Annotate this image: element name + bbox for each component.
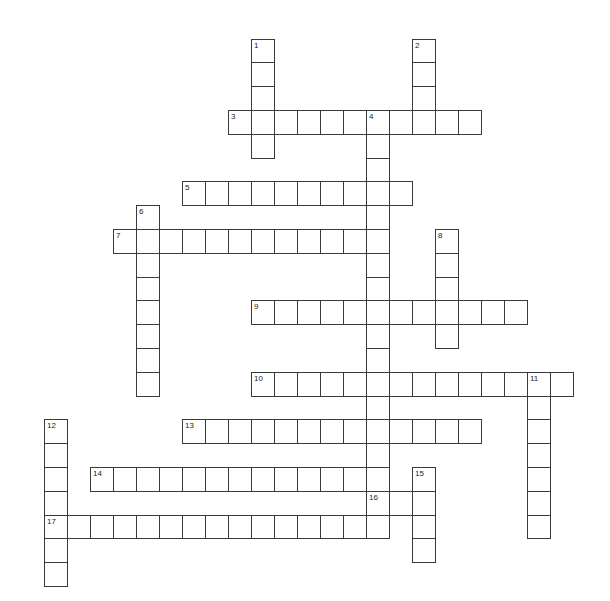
- crossword-cell[interactable]: [343, 300, 367, 325]
- crossword-cell[interactable]: [159, 229, 183, 254]
- crossword-cell[interactable]: [159, 467, 183, 492]
- crossword-cell[interactable]: [435, 372, 459, 397]
- crossword-cell[interactable]: [182, 467, 206, 492]
- crossword-cell[interactable]: [527, 419, 551, 444]
- crossword-cell[interactable]: [389, 372, 413, 397]
- crossword-cell[interactable]: [458, 372, 482, 397]
- crossword-cell[interactable]: [481, 300, 505, 325]
- crossword-cell[interactable]: [274, 515, 298, 539]
- crossword-cell[interactable]: [343, 181, 367, 206]
- crossword-cell[interactable]: [228, 515, 252, 539]
- crossword-cell[interactable]: [435, 324, 459, 349]
- crossword-cell[interactable]: [504, 300, 528, 325]
- crossword-cell[interactable]: [113, 467, 137, 492]
- crossword-cell[interactable]: [435, 300, 459, 325]
- crossword-cell[interactable]: [343, 229, 367, 254]
- crossword-cell[interactable]: [251, 181, 275, 206]
- crossword-cell[interactable]: [228, 229, 252, 254]
- crossword-cell[interactable]: [44, 491, 68, 516]
- crossword-cell[interactable]: [366, 396, 390, 420]
- crossword-cell[interactable]: [182, 229, 206, 254]
- crossword-cell[interactable]: [320, 515, 344, 539]
- crossword-cell[interactable]: 5: [182, 181, 206, 206]
- crossword-cell[interactable]: 12: [44, 419, 68, 444]
- crossword-cell[interactable]: [550, 372, 574, 397]
- crossword-cell[interactable]: [251, 62, 275, 87]
- crossword-cell[interactable]: [389, 181, 413, 206]
- crossword-cell[interactable]: [527, 467, 551, 492]
- crossword-cell[interactable]: [136, 277, 160, 301]
- crossword-cell[interactable]: [389, 110, 413, 135]
- crossword-cell[interactable]: [251, 515, 275, 539]
- crossword-cell[interactable]: [412, 515, 436, 539]
- crossword-cell[interactable]: [274, 229, 298, 254]
- crossword-cell[interactable]: [412, 538, 436, 563]
- crossword-cell[interactable]: [297, 515, 321, 539]
- crossword-cell[interactable]: [320, 229, 344, 254]
- crossword-cell[interactable]: [274, 300, 298, 325]
- crossword-cell[interactable]: 14: [90, 467, 114, 492]
- crossword-cell[interactable]: [366, 158, 390, 182]
- crossword-cell[interactable]: [527, 515, 551, 539]
- crossword-cell[interactable]: [366, 300, 390, 325]
- crossword-cell[interactable]: [435, 277, 459, 301]
- crossword-cell[interactable]: [366, 277, 390, 301]
- crossword-cell[interactable]: [412, 419, 436, 444]
- crossword-cell[interactable]: [297, 467, 321, 492]
- crossword-cell[interactable]: [297, 110, 321, 135]
- crossword-cell[interactable]: 4: [366, 110, 390, 135]
- crossword-cell[interactable]: [136, 253, 160, 278]
- crossword-cell[interactable]: [320, 110, 344, 135]
- crossword-cell[interactable]: [251, 229, 275, 254]
- crossword-cell[interactable]: [389, 419, 413, 444]
- crossword-cell[interactable]: [205, 515, 229, 539]
- crossword-cell[interactable]: [366, 467, 390, 492]
- crossword-cell[interactable]: [366, 372, 390, 397]
- crossword-cell[interactable]: [274, 467, 298, 492]
- crossword-cell[interactable]: [136, 372, 160, 397]
- crossword-cell[interactable]: [320, 300, 344, 325]
- crossword-cell[interactable]: [44, 443, 68, 468]
- crossword-cell[interactable]: 9: [251, 300, 275, 325]
- crossword-cell[interactable]: [366, 253, 390, 278]
- crossword-cell[interactable]: 8: [435, 229, 459, 254]
- crossword-cell[interactable]: [297, 372, 321, 397]
- crossword-cell[interactable]: [182, 515, 206, 539]
- crossword-cell[interactable]: [412, 300, 436, 325]
- crossword-cell[interactable]: [412, 110, 436, 135]
- crossword-cell[interactable]: [251, 86, 275, 111]
- crossword-cell[interactable]: [343, 515, 367, 539]
- crossword-cell[interactable]: [412, 372, 436, 397]
- crossword-cell[interactable]: [228, 467, 252, 492]
- crossword-cell[interactable]: 16: [366, 491, 390, 516]
- crossword-cell[interactable]: 2: [412, 39, 436, 63]
- crossword-cell[interactable]: [504, 372, 528, 397]
- crossword-cell[interactable]: [251, 134, 275, 159]
- crossword-cell[interactable]: 17: [44, 515, 68, 539]
- crossword-cell[interactable]: [366, 181, 390, 206]
- crossword-cell[interactable]: [320, 419, 344, 444]
- crossword-cell[interactable]: [136, 467, 160, 492]
- crossword-cell[interactable]: [297, 229, 321, 254]
- crossword-cell[interactable]: [366, 443, 390, 468]
- crossword-cell[interactable]: [136, 229, 160, 254]
- crossword-cell[interactable]: [527, 443, 551, 468]
- crossword-cell[interactable]: [343, 467, 367, 492]
- crossword-cell[interactable]: [366, 229, 390, 254]
- crossword-cell[interactable]: [527, 491, 551, 516]
- crossword-cell[interactable]: 13: [182, 419, 206, 444]
- crossword-cell[interactable]: 6: [136, 205, 160, 230]
- crossword-cell[interactable]: 7: [113, 229, 137, 254]
- crossword-cell[interactable]: 3: [228, 110, 252, 135]
- crossword-cell[interactable]: [389, 491, 413, 516]
- crossword-cell[interactable]: [343, 372, 367, 397]
- crossword-cell[interactable]: [481, 372, 505, 397]
- crossword-cell[interactable]: [205, 181, 229, 206]
- crossword-cell[interactable]: [44, 467, 68, 492]
- crossword-cell[interactable]: [274, 372, 298, 397]
- crossword-cell[interactable]: [320, 372, 344, 397]
- crossword-cell[interactable]: [205, 419, 229, 444]
- crossword-cell[interactable]: [251, 110, 275, 135]
- crossword-cell[interactable]: [366, 134, 390, 159]
- crossword-cell[interactable]: [458, 110, 482, 135]
